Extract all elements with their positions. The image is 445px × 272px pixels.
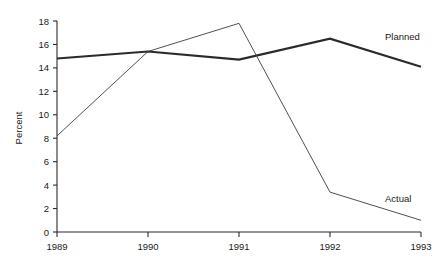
y-tick-label: 12: [38, 86, 49, 97]
line-chart: 024681012141618 19891990199119921993 Per…: [0, 0, 445, 272]
x-tick-label: 1991: [228, 241, 249, 252]
x-tick-label: 1992: [319, 241, 340, 252]
series-line-planned: [57, 39, 421, 67]
y-tick-label: 0: [44, 227, 49, 238]
y-tick-label: 18: [38, 16, 49, 27]
y-tick-label: 10: [38, 109, 49, 120]
chart-svg: 024681012141618 19891990199119921993 Per…: [0, 0, 445, 272]
y-axis-title: Percent: [13, 111, 24, 144]
y-tick-label: 6: [44, 156, 49, 167]
y-tick-label: 4: [44, 180, 49, 191]
x-tick-label: 1989: [46, 241, 67, 252]
series-line-actual: [57, 23, 421, 220]
x-tick-label: 1993: [410, 241, 431, 252]
series-label-planned: Planned: [385, 31, 420, 42]
y-axis-tick-labels: 024681012141618: [38, 16, 49, 238]
x-tick-label: 1990: [137, 241, 158, 252]
y-axis-tick-marks: [53, 21, 57, 232]
x-axis-tick-labels: 19891990199119921993: [46, 241, 431, 252]
y-tick-label: 8: [44, 133, 49, 144]
y-tick-label: 2: [44, 203, 49, 214]
x-axis-tick-marks: [57, 232, 421, 237]
series-label-actual: Actual: [385, 193, 411, 204]
y-tick-label: 14: [38, 62, 49, 73]
y-tick-label: 16: [38, 39, 49, 50]
